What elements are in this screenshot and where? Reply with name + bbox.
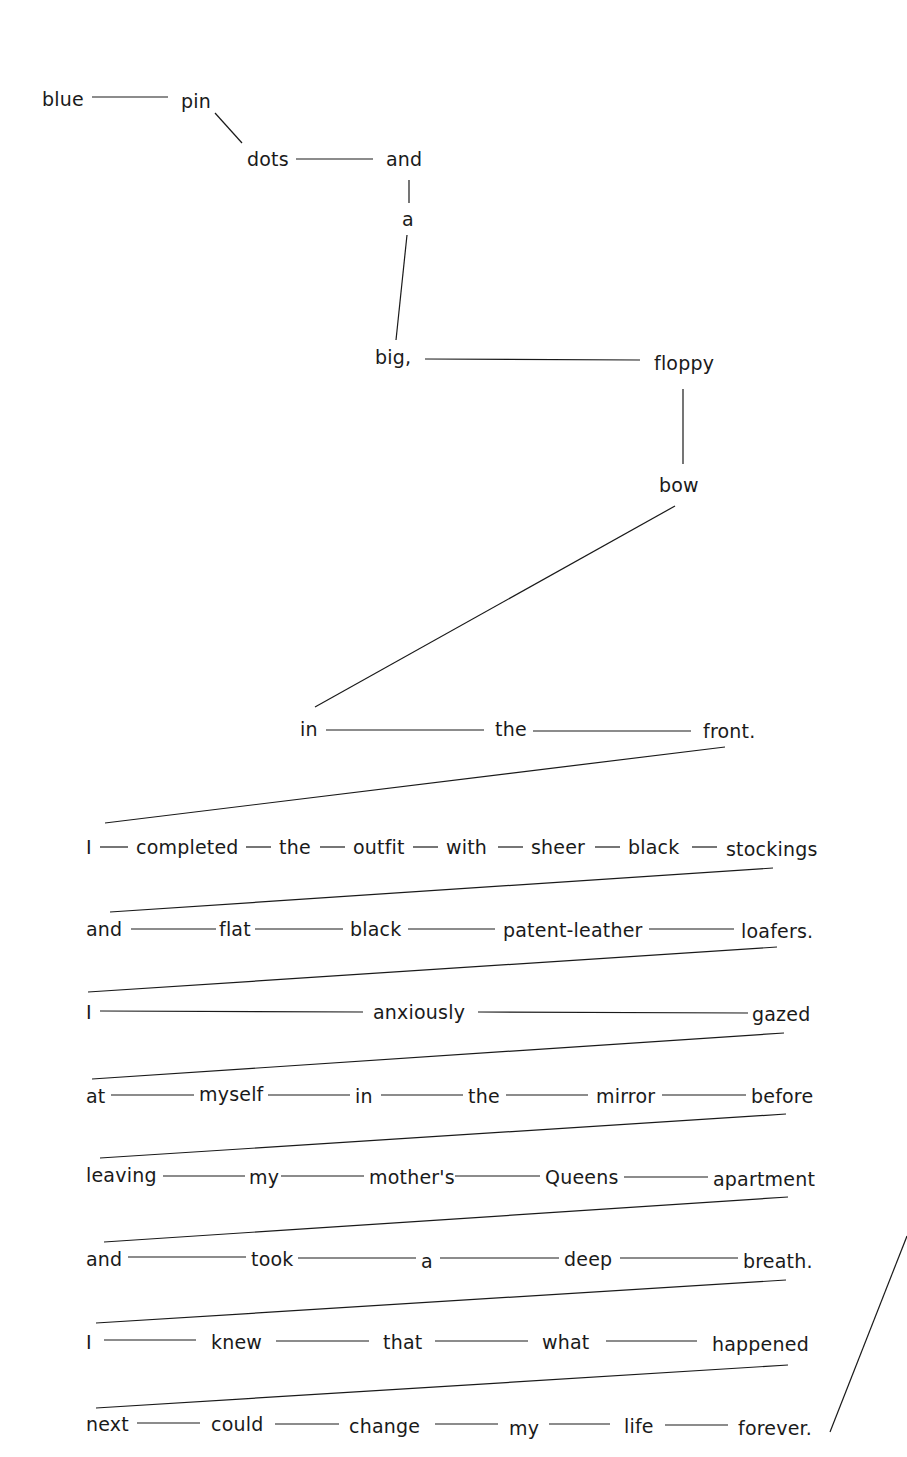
connector-line — [96, 1280, 786, 1323]
word-node: and — [86, 1250, 122, 1269]
connector-line — [100, 1011, 363, 1012]
word-node: I — [86, 1333, 92, 1352]
word-node: knew — [211, 1333, 262, 1352]
word-node: flat — [219, 920, 251, 939]
connector-line — [92, 1033, 784, 1079]
connector-line — [96, 1365, 788, 1408]
diagram-canvas — [0, 0, 907, 1457]
word-node: bow — [659, 476, 699, 495]
word-node: my — [509, 1419, 539, 1438]
connector-line — [104, 1197, 788, 1242]
word-node: anxiously — [373, 1003, 465, 1022]
word-node: that — [383, 1333, 422, 1352]
word-node: black — [628, 838, 679, 857]
word-node: before — [751, 1087, 813, 1106]
word-node: outfit — [353, 838, 405, 857]
word-node: life — [624, 1417, 654, 1436]
connector-line — [110, 868, 773, 912]
word-node: happened — [712, 1335, 809, 1354]
word-node: the — [468, 1087, 500, 1106]
connector-line — [100, 1114, 786, 1158]
word-node: I — [86, 838, 92, 857]
connector-line — [105, 747, 725, 823]
word-node: stockings — [726, 840, 818, 859]
word-node: floppy — [654, 354, 714, 373]
word-node: what — [542, 1333, 589, 1352]
word-node: a — [421, 1252, 433, 1271]
connector-line — [215, 113, 242, 143]
connector-line — [315, 506, 675, 707]
connector-line — [88, 947, 777, 992]
word-node: dots — [247, 150, 289, 169]
connector-line — [478, 1012, 748, 1013]
word-node: and — [86, 920, 122, 939]
word-node: I — [86, 1003, 92, 1022]
word-node: my — [249, 1168, 279, 1187]
word-node: forever. — [738, 1419, 812, 1438]
word-node: the — [279, 838, 311, 857]
word-node: front. — [703, 722, 755, 741]
word-node: loafers. — [741, 922, 813, 941]
word-node: deep — [564, 1250, 612, 1269]
word-node: mother's — [369, 1168, 455, 1187]
word-node: at — [86, 1087, 106, 1106]
word-node: myself — [199, 1085, 264, 1104]
connector-line — [830, 1236, 907, 1432]
word-node: next — [86, 1415, 129, 1434]
connector-line — [396, 235, 407, 340]
word-node: leaving — [86, 1166, 157, 1185]
word-node: in — [355, 1087, 373, 1106]
word-node: blue — [42, 90, 84, 109]
word-node: could — [211, 1415, 263, 1434]
word-node: change — [349, 1417, 420, 1436]
word-node: and — [386, 150, 422, 169]
word-node: sheer — [531, 838, 585, 857]
word-node: a — [402, 210, 414, 229]
word-node: breath. — [743, 1252, 813, 1271]
word-node: patent-leather — [503, 921, 643, 940]
word-node: gazed — [752, 1005, 810, 1024]
word-node: Queens — [545, 1168, 619, 1187]
word-node: big, — [375, 348, 411, 367]
word-node: in — [300, 720, 318, 739]
word-node: took — [251, 1250, 294, 1269]
word-node: pin — [181, 92, 211, 111]
word-node: black — [350, 920, 401, 939]
word-node: with — [446, 838, 487, 857]
word-node: apartment — [713, 1170, 815, 1189]
word-node: mirror — [596, 1087, 655, 1106]
word-node: the — [495, 720, 527, 739]
word-node: completed — [136, 838, 239, 857]
connector-line — [425, 359, 640, 360]
